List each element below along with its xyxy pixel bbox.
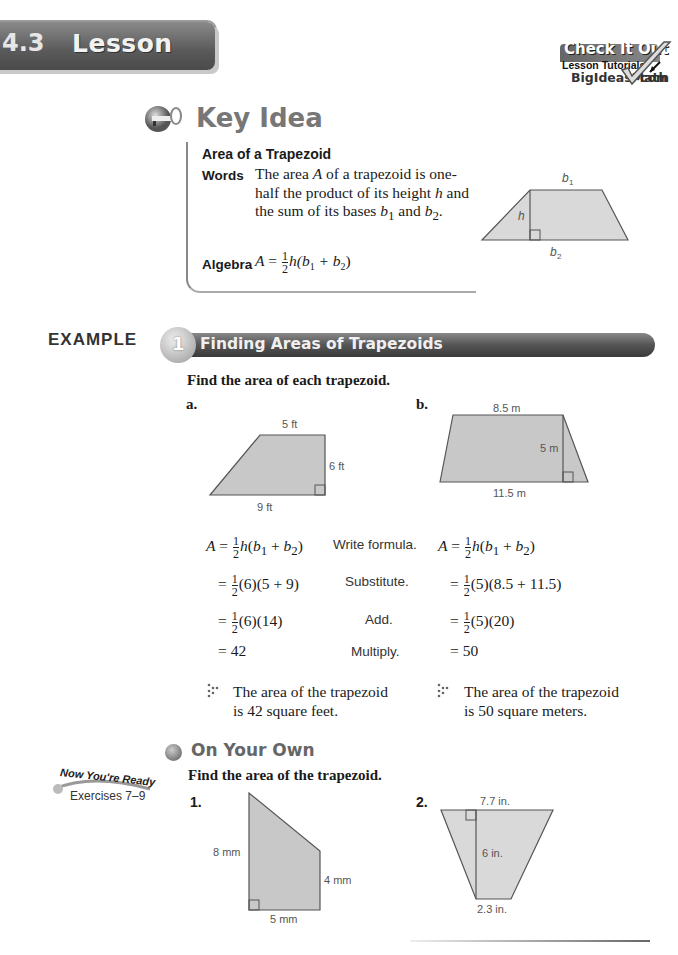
step-a-3: = 12(6)(14): [218, 610, 283, 635]
example-number: 1: [172, 333, 185, 354]
label-b1: b: [562, 171, 569, 185]
page-divider: [410, 940, 650, 942]
label-5mm: 5 mm: [270, 913, 298, 925]
on-your-own-heading: On Your Own: [191, 740, 315, 760]
label-b2: b: [550, 245, 557, 259]
key-idea-title: Area of a Trapezoid: [202, 146, 331, 162]
now-youre-ready-exercises[interactable]: Exercises 7–9: [70, 789, 145, 803]
words-definition: The area A of a trapezoid is one-half th…: [255, 165, 470, 226]
label-4mm: 4 mm: [324, 874, 352, 886]
exercise-1-label: 1.: [190, 794, 202, 810]
result-arrow-icon: [436, 682, 452, 698]
checkmark-icon: [620, 40, 675, 86]
label-b2-sub: 2: [557, 252, 562, 260]
example-title: Finding Areas of Trapezoids: [200, 335, 443, 353]
algebra-label: Algebra: [202, 257, 252, 272]
label-6in: 6 in.: [482, 847, 503, 859]
trapezoid-figure-2: 7.7 in. 6 in. 2.3 in.: [430, 795, 580, 935]
label-2-3in: 2.3 in.: [477, 903, 507, 915]
label-9ft: 9 ft: [257, 501, 272, 513]
lesson-number: 4.3: [2, 29, 45, 57]
label-8mm: 8 mm: [213, 846, 241, 858]
reason-a-3: Add.: [365, 612, 393, 627]
step-b-1: A = 12h(b1 + b2): [438, 535, 535, 560]
label-6ft: 6 ft: [329, 460, 344, 472]
step-a-4: = 42: [218, 642, 246, 660]
key-idea-heading: Key Idea: [196, 103, 323, 133]
step-a-2: = 12(6)(5 + 9): [218, 573, 299, 598]
result-arrow-icon: [206, 682, 222, 698]
label-b1-sub: 1: [569, 178, 574, 187]
result-a: The area of the trapezoid is 42 square f…: [233, 682, 388, 720]
on-your-own-instruction: Find the area of the trapezoid.: [188, 767, 382, 784]
step-b-4: = 50: [450, 642, 478, 660]
label-5ft: 5 ft: [282, 418, 297, 430]
step-b-3: = 12(5)(20): [450, 610, 515, 635]
reason-a-1: Write formula.: [333, 537, 417, 552]
label-7-7in: 7.7 in.: [480, 795, 510, 807]
part-b-label: b.: [416, 396, 428, 413]
example-label: EXAMPLE: [48, 330, 137, 350]
step-b-2: = 12(5)(8.5 + 11.5): [450, 573, 561, 598]
result-b: The area of the trapezoid is 50 square m…: [464, 682, 619, 720]
label-11-5m: 11.5 m: [493, 487, 526, 499]
label-h: h: [518, 209, 525, 223]
key-icon: [144, 104, 186, 134]
reason-a-2: Substitute.: [345, 574, 409, 589]
trapezoid-figure-a: 5 ft 6 ft 9 ft: [200, 400, 360, 515]
area-formula: A = 12h(b1 + b2): [255, 250, 351, 275]
label-5m: 5 m: [540, 442, 558, 454]
reason-a-4: Multiply.: [351, 644, 400, 659]
example-instruction: Find the area of each trapezoid.: [187, 372, 390, 389]
step-a-1: A = 12h(b1 + b2): [206, 535, 303, 560]
exercise-2-label: 2.: [416, 794, 428, 810]
trapezoid-figure-b: 8.5 m 5 m 11.5 m: [430, 400, 610, 500]
words-label: Words: [202, 168, 244, 183]
trapezoid-figure-1: 8 mm 4 mm 5 mm: [205, 790, 385, 925]
lesson-title: Lesson: [72, 29, 173, 58]
trapezoid-diagram: b 1 h b 2: [470, 160, 650, 260]
part-a-label: a.: [186, 396, 197, 413]
on-your-own-icon: [165, 744, 182, 761]
label-8-5m: 8.5 m: [493, 402, 521, 414]
